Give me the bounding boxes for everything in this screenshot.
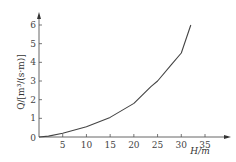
y-axis-arrow-icon [37,12,41,19]
x-tick-label: 10 [81,140,93,150]
x-tick-label: 15 [104,140,116,150]
x-tick-label: 20 [128,140,140,150]
y-tick-label: 5 [30,39,36,49]
data-curve [39,25,191,137]
y-tick-label: 2 [30,95,36,105]
x-tick-label: 30 [176,140,188,150]
x-axis-arrow-icon [224,135,231,139]
x-tick-label: 5 [60,140,66,150]
y-tick-label: 6 [30,20,36,30]
y-axis-label: Q/[m³/(s·m)] [16,54,26,110]
chart: 51015202530350123456H/mQ/[m³/(s·m)] [0,0,236,162]
plot-area: 51015202530350123456H/mQ/[m³/(s·m)] [0,0,236,162]
y-tick-label: 4 [30,57,36,67]
x-axis-label: H/m [189,146,209,156]
origin-label: 0 [30,133,36,143]
x-tick-label: 25 [152,140,164,150]
y-tick-label: 3 [30,76,36,86]
y-tick-label: 1 [30,113,36,123]
